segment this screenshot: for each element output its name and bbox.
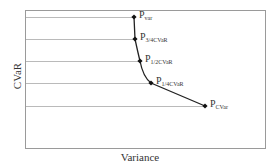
efficient-frontier-chart <box>0 0 278 167</box>
y-axis-label: CVaR <box>10 61 24 91</box>
point-label: PCVar <box>210 98 228 113</box>
point-label: P3/4CVaR <box>140 31 168 46</box>
point-marker <box>132 36 137 41</box>
point-marker <box>131 14 136 19</box>
point-marker <box>202 103 207 108</box>
point-marker <box>137 58 142 63</box>
point-label: Pvar <box>139 9 152 24</box>
point-label: P1/2CVaR <box>145 53 173 68</box>
point-label: P1/4CVaR <box>156 75 184 90</box>
reference-lines <box>26 18 205 107</box>
x-axis-label: Variance <box>110 150 170 164</box>
